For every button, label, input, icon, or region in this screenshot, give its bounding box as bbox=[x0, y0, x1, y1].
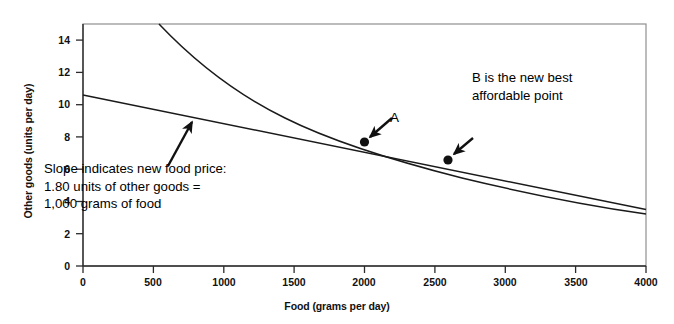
x-axis-title: Food (grams per day) bbox=[0, 300, 674, 312]
x-axis-ticks bbox=[83, 266, 646, 273]
slope-annotation: Slope indicates new food price: 1.80 uni… bbox=[44, 160, 227, 213]
y-tick-label-14: 14 bbox=[36, 34, 70, 46]
slope-annotation-line-1: Slope indicates new food price: bbox=[44, 160, 227, 178]
y-axis-title: Other goods (units per day) bbox=[22, 31, 34, 271]
point-b-marker bbox=[443, 155, 452, 164]
point-b-annotation-line-1: B is the new best bbox=[472, 69, 572, 87]
x-tick-label-1500: 1500 bbox=[269, 276, 319, 288]
chart-figure: 14 12 10 8 6 4 2 0 0 500 1000 1500 2000 … bbox=[0, 0, 674, 324]
y-axis-ticks bbox=[76, 40, 83, 266]
y-tick-label-12: 12 bbox=[36, 66, 70, 78]
slope-annotation-line-3: 1,000 grams of food bbox=[44, 195, 227, 213]
y-tick-label-2: 2 bbox=[36, 228, 70, 240]
x-tick-label-0: 0 bbox=[58, 276, 108, 288]
x-tick-label-2000: 2000 bbox=[339, 276, 389, 288]
point-a-label: A bbox=[390, 110, 399, 125]
x-tick-label-3000: 3000 bbox=[480, 276, 530, 288]
x-tick-label-500: 500 bbox=[128, 276, 178, 288]
point-a-marker bbox=[360, 137, 369, 146]
x-tick-label-1000: 1000 bbox=[199, 276, 249, 288]
slope-annotation-line-2: 1.80 units of other goods = bbox=[44, 178, 227, 196]
point-b-annotation: B is the new best affordable point bbox=[472, 69, 572, 104]
point-b-annotation-line-2: affordable point bbox=[472, 87, 572, 105]
y-tick-label-8: 8 bbox=[36, 131, 70, 143]
y-tick-label-0: 0 bbox=[36, 260, 70, 272]
x-tick-label-4000: 4000 bbox=[621, 276, 671, 288]
x-tick-label-3500: 3500 bbox=[551, 276, 601, 288]
x-tick-label-2500: 2500 bbox=[410, 276, 460, 288]
y-tick-label-10: 10 bbox=[36, 98, 70, 110]
